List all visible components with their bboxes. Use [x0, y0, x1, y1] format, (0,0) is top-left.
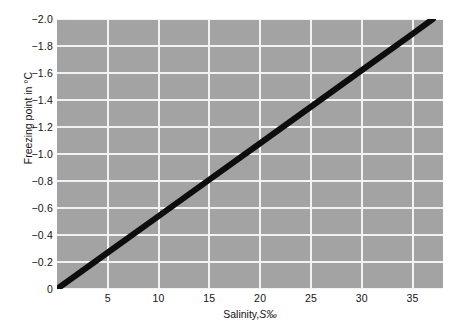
data-line — [57, 19, 443, 289]
x-axis-tick-label: 35 — [398, 292, 428, 304]
x-axis-tick-labels: 5101520253035 — [57, 292, 443, 308]
x-axis-tick-label: 25 — [296, 292, 326, 304]
plot-area — [57, 19, 443, 289]
x-axis-title-text: Salinity, — [223, 308, 259, 320]
x-axis-tick-label: 15 — [194, 292, 224, 304]
chart-figure: −2.0−1.8−1.6−1.4−1.2−1.0−0.8−0.6−0.4−0.2… — [0, 0, 465, 329]
x-axis-tick-label: 30 — [347, 292, 377, 304]
x-axis-tick-label: 5 — [93, 292, 123, 304]
y-axis-tick-label: −2.0 — [9, 13, 53, 25]
y-axis-tick-label: 0 — [9, 283, 53, 295]
y-axis-title: Freezing point in °C — [22, 43, 34, 193]
y-axis-tick-label: −0.6 — [9, 202, 53, 214]
x-axis-tick-label: 20 — [245, 292, 275, 304]
x-axis-title-symbol: S‰ — [259, 308, 277, 320]
y-axis-tick-label: −0.2 — [9, 256, 53, 268]
y-axis-tick-label: −0.4 — [9, 229, 53, 241]
x-axis-title: Salinity,S‰ — [57, 308, 443, 320]
x-axis-tick-label: 10 — [144, 292, 174, 304]
